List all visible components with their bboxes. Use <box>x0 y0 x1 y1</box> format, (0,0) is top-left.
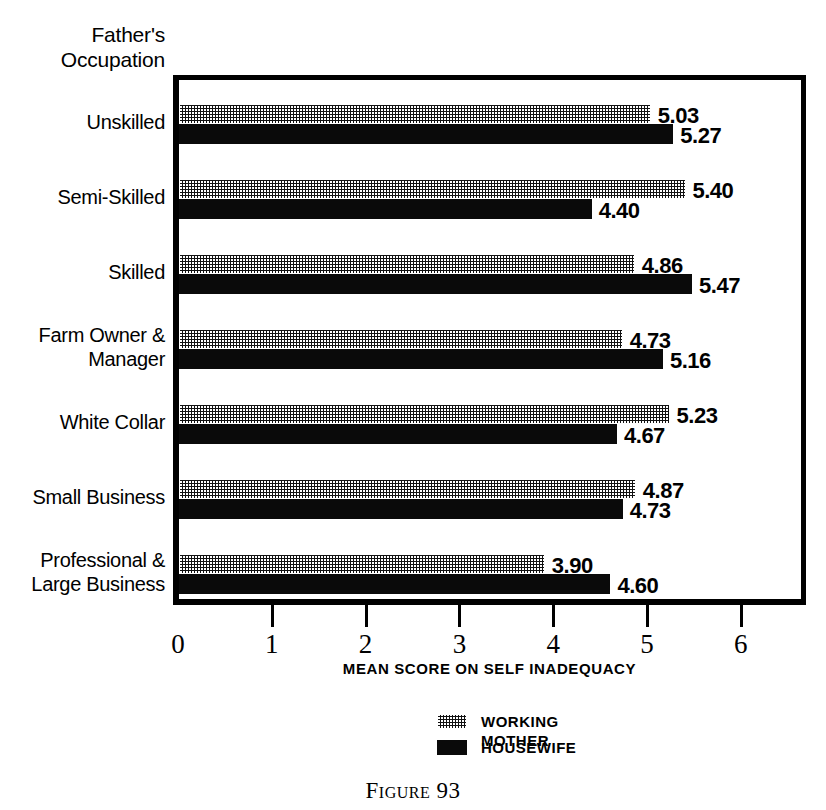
legend-swatch-hatch <box>437 714 467 729</box>
bar-value-label: 4.40 <box>599 200 640 222</box>
legend-swatch-solid <box>437 740 467 755</box>
bar-solid <box>179 199 592 219</box>
axis-tick-label: 3 <box>439 629 479 659</box>
bar-solid <box>179 124 673 144</box>
bar-solid <box>179 574 610 594</box>
y-axis-title: Father's Occupation <box>0 22 165 72</box>
bar-value-label: 5.47 <box>699 275 740 297</box>
bar-value-label: 5.16 <box>670 350 711 372</box>
figure-caption: Figure 93 <box>0 778 826 804</box>
bar-value-label: 4.73 <box>630 500 671 522</box>
axis-tick <box>552 605 555 627</box>
axis-tick <box>271 605 274 627</box>
axis-tick-label: 6 <box>721 629 761 659</box>
axis-tick-label: 5 <box>627 629 667 659</box>
axis-tick <box>740 605 743 627</box>
category-label: Farm Owner & Manager <box>0 323 165 371</box>
axis-tick <box>458 605 461 627</box>
axis-tick-label: 1 <box>252 629 292 659</box>
bar-hatch <box>179 479 636 499</box>
axis-tick-label: 2 <box>346 629 386 659</box>
legend-label: HOUSEWIFE <box>481 738 576 757</box>
plot-area: 5.035.275.404.404.865.474.735.165.234.67… <box>173 75 806 605</box>
category-label: Unskilled <box>0 110 165 134</box>
bar-value-label: 4.60 <box>617 575 658 597</box>
bar-solid <box>179 424 617 444</box>
axis-tick <box>365 605 368 627</box>
bar-solid <box>179 499 623 519</box>
bar-solid <box>179 274 692 294</box>
bar-hatch <box>179 104 651 124</box>
category-label: Small Business <box>0 485 165 509</box>
bar-value-label: 4.67 <box>624 425 665 447</box>
bar-value-label: 5.40 <box>693 180 734 202</box>
axis-tick <box>646 605 649 627</box>
bar-hatch <box>179 554 545 574</box>
bar-hatch <box>179 404 670 424</box>
bar-value-label: 5.27 <box>680 125 721 147</box>
bar-hatch <box>179 254 635 274</box>
bar-hatch <box>179 179 686 199</box>
category-label: Skilled <box>0 260 165 284</box>
bar-solid <box>179 349 663 369</box>
axis-tick-label: 0 <box>158 629 198 659</box>
x-axis-label: MEAN SCORE ON SELF INADEQUACY <box>173 660 806 677</box>
bar-value-label: 5.23 <box>677 405 718 427</box>
category-label: White Collar <box>0 410 165 434</box>
category-label: Professional & Large Business <box>0 548 165 596</box>
axis-tick-label: 4 <box>533 629 573 659</box>
bar-hatch <box>179 329 623 349</box>
category-label: Semi-Skilled <box>0 185 165 209</box>
